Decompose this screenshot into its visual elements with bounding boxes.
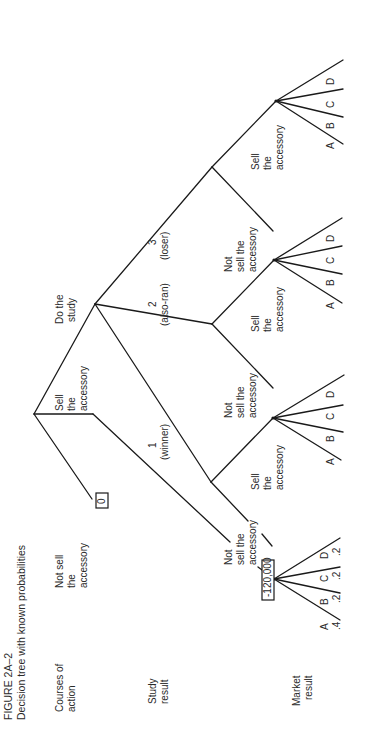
label-not-sell-root: Not sell the accessory <box>54 543 89 588</box>
svg-text:(loser): (loser) <box>159 232 170 260</box>
svg-text:Not sell: Not sell <box>54 555 65 588</box>
svg-text:result: result <box>303 675 314 700</box>
svg-text:D: D <box>325 235 336 242</box>
svg-text:C: C <box>325 101 336 108</box>
payoff-box-sell-no-study: -120,000 <box>262 557 274 600</box>
svg-text:B: B <box>325 435 336 442</box>
payoff-value: -120,000 <box>262 557 273 597</box>
market-fan-no-study: A B C D .4 .2 .2 .2 <box>272 538 342 630</box>
svg-text:B: B <box>325 279 336 286</box>
probability-a: .4 <box>331 621 342 630</box>
study-result-also-ran: 2 (also-ran) <box>147 283 170 326</box>
svg-text:Do the: Do the <box>54 294 65 324</box>
svg-text:action: action <box>66 685 77 712</box>
svg-text:Sell: Sell <box>250 315 261 332</box>
svg-text:A: A <box>325 458 336 465</box>
probability-c: .2 <box>331 571 342 580</box>
payoff-value: 0 <box>96 498 107 504</box>
svg-text:C: C <box>319 575 330 582</box>
svg-text:Not: Not <box>223 549 234 565</box>
label-sell-winner: Sell the accessory <box>250 445 285 490</box>
svg-text:A: A <box>325 302 336 309</box>
svg-text:the: the <box>66 397 77 411</box>
svg-text:1: 1 <box>147 442 158 448</box>
svg-text:B: B <box>325 122 336 129</box>
probability-b: .2 <box>331 594 342 603</box>
probability-d: .2 <box>331 547 342 556</box>
study-result-winner: 1 (winner) <box>147 424 170 460</box>
svg-text:3: 3 <box>147 239 158 245</box>
study-result-loser: 3 (loser) <box>147 232 170 260</box>
label-do-the-study: Do the study <box>54 294 77 324</box>
svg-text:Sell: Sell <box>250 473 261 490</box>
svg-text:D: D <box>325 78 336 85</box>
label-sell-loser: Sell the accessory <box>250 125 285 170</box>
svg-text:Study: Study <box>147 678 158 704</box>
row-label-courses-of-action: Courses of action <box>54 663 77 712</box>
svg-text:sell the: sell the <box>235 533 246 565</box>
svg-text:accessory: accessory <box>274 125 285 170</box>
svg-text:C: C <box>325 257 336 264</box>
label-sell-root: Sell the accessory <box>54 366 89 411</box>
svg-text:accessory: accessory <box>247 227 258 272</box>
svg-text:D: D <box>325 391 336 398</box>
svg-text:accessory: accessory <box>274 287 285 332</box>
svg-text:accessory: accessory <box>247 373 258 418</box>
svg-text:A: A <box>325 142 336 149</box>
svg-text:2: 2 <box>147 301 158 307</box>
svg-text:D: D <box>319 552 330 559</box>
decision-tree-diagram: FIGURE 2A–2 Decision tree with known pro… <box>0 0 371 739</box>
label-sell-also-ran: Sell the accessory <box>250 287 285 332</box>
figure-caption: Decision tree with known probabilities <box>15 545 27 720</box>
svg-text:Courses of: Courses of <box>54 663 65 712</box>
svg-text:(also-ran): (also-ran) <box>159 283 170 326</box>
svg-text:accessory: accessory <box>78 366 89 411</box>
svg-text:the: the <box>262 476 273 490</box>
study-chance-node <box>95 167 212 482</box>
svg-text:Not: Not <box>223 256 234 272</box>
label-not-sell-winner: Not sell the accessory <box>223 373 258 418</box>
svg-text:Market: Market <box>291 675 302 706</box>
svg-text:(winner): (winner) <box>159 424 170 460</box>
svg-text:result: result <box>159 679 170 704</box>
label-not-sell-no-study: Not sell the accessory <box>223 520 258 565</box>
figure-number: FIGURE 2A–2 <box>2 653 14 720</box>
svg-text:C: C <box>325 413 336 420</box>
label-not-sell-also-ran: Not sell the accessory <box>223 227 258 272</box>
svg-text:A: A <box>319 623 330 630</box>
row-label-market-result: Market result <box>291 675 314 706</box>
svg-text:accessory: accessory <box>247 520 258 565</box>
figure-title: FIGURE 2A–2 Decision tree with known pro… <box>2 545 27 720</box>
svg-text:accessory: accessory <box>78 543 89 588</box>
svg-text:the: the <box>66 574 77 588</box>
row-label-study-result: Study result <box>147 678 170 704</box>
svg-text:Sell: Sell <box>54 394 65 411</box>
svg-text:Sell: Sell <box>250 153 261 170</box>
payoff-box-not-sell: 0 <box>96 493 108 508</box>
svg-text:sell the: sell the <box>235 240 246 272</box>
svg-text:sell the: sell the <box>235 386 246 418</box>
svg-text:the: the <box>262 318 273 332</box>
svg-text:B: B <box>319 598 330 605</box>
svg-text:accessory: accessory <box>274 445 285 490</box>
svg-text:Not: Not <box>223 402 234 418</box>
svg-text:the: the <box>262 156 273 170</box>
svg-text:study: study <box>66 298 77 322</box>
